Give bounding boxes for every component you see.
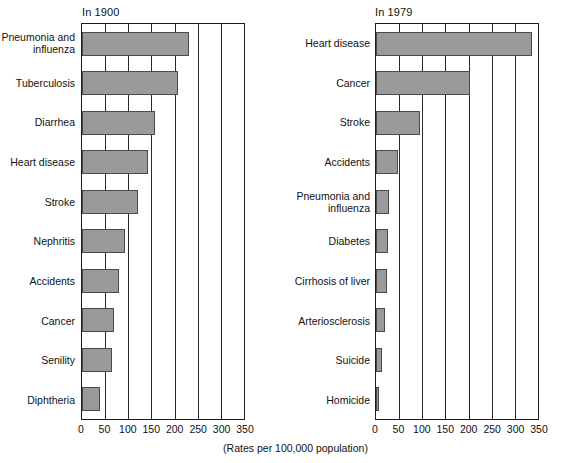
bar-row <box>82 64 244 104</box>
bar <box>376 387 379 411</box>
panel-1979-x-axis-ticks: 050100150200250300350 <box>375 423 539 439</box>
bar-row <box>376 222 538 262</box>
bar-row <box>376 340 538 380</box>
bar <box>376 190 389 214</box>
x-tick-label-50: 50 <box>393 423 405 435</box>
x-tick-label-200: 200 <box>460 423 478 435</box>
category-label: Homicide <box>286 380 370 420</box>
category-label: Pneumonia andinfluenza <box>0 23 75 63</box>
bar <box>82 348 112 372</box>
category-label: Tuberculosis <box>0 63 75 103</box>
bar-row <box>376 301 538 341</box>
category-label: Heart disease <box>286 23 370 63</box>
category-label: Heart disease <box>0 142 75 182</box>
category-label: Stroke <box>0 182 75 222</box>
panel-1900-x-axis-ticks: 050100150200250300350 <box>81 423 245 439</box>
category-label: Diarrhea <box>0 102 75 142</box>
bar-row <box>82 182 244 222</box>
footnote: (Rates per 100,000 population) <box>0 442 561 454</box>
x-tick-label-50: 50 <box>99 423 111 435</box>
panel-1979-category-labels: Heart diseaseCancerStrokeAccidentsPneumo… <box>286 23 370 420</box>
panel-1900-plot-area <box>81 23 245 420</box>
category-label: Cancer <box>286 63 370 103</box>
bar-row <box>82 143 244 183</box>
bar-row <box>82 222 244 262</box>
bar-row <box>82 380 244 420</box>
x-tick-label-100: 100 <box>119 423 137 435</box>
category-label: Arteriosclerosis <box>286 301 370 341</box>
bar-row <box>376 143 538 183</box>
x-tick-label-0: 0 <box>372 423 378 435</box>
x-tick-label-350: 350 <box>530 423 548 435</box>
bar <box>376 308 385 332</box>
category-label: Accidents <box>0 261 75 301</box>
x-tick-label-300: 300 <box>213 423 231 435</box>
panel-1900-title: In 1900 <box>82 6 119 18</box>
category-label: Suicide <box>286 341 370 381</box>
category-label: Senility <box>0 341 75 381</box>
panel-1979: In 1979 Heart diseaseCancerStrokeAcciden… <box>280 0 561 463</box>
bar <box>82 32 189 56</box>
bar-row <box>376 103 538 143</box>
bar <box>82 71 178 95</box>
bar-row <box>82 261 244 301</box>
panel-1979-plot-area <box>375 23 539 420</box>
bar <box>82 387 100 411</box>
x-tick-label-350: 350 <box>236 423 254 435</box>
bar-row <box>376 380 538 420</box>
category-label: Nephritis <box>0 221 75 261</box>
bar-row <box>376 24 538 64</box>
bar-row <box>82 301 244 341</box>
bar-row <box>82 340 244 380</box>
x-tick-label-150: 150 <box>437 423 455 435</box>
bar <box>82 150 148 174</box>
bar <box>376 111 420 135</box>
bar <box>376 71 470 95</box>
category-label: Accidents <box>286 142 370 182</box>
bar <box>82 269 119 293</box>
category-label: Diabetes <box>286 221 370 261</box>
bar-row <box>82 24 244 64</box>
category-label: Cirrhosis of liver <box>286 261 370 301</box>
bar <box>376 32 532 56</box>
x-tick-label-200: 200 <box>166 423 184 435</box>
bar <box>376 269 387 293</box>
x-tick-label-100: 100 <box>413 423 431 435</box>
bar-row <box>82 103 244 143</box>
category-label: Cancer <box>0 301 75 341</box>
bar <box>376 229 388 253</box>
x-tick-label-0: 0 <box>78 423 84 435</box>
bar <box>82 229 125 253</box>
category-label: Pneumonia andinfluenza <box>286 182 370 222</box>
bar <box>82 190 138 214</box>
panel-1900-bars <box>82 24 244 419</box>
panel-1979-title: In 1979 <box>375 6 412 18</box>
panel-1900-category-labels: Pneumonia andinfluenzaTuberculosisDiarrh… <box>0 23 75 420</box>
panel-1979-bars <box>376 24 538 419</box>
bar <box>82 308 114 332</box>
x-tick-label-150: 150 <box>143 423 161 435</box>
panel-1900: In 1900 Pneumonia andinfluenzaTuberculos… <box>0 0 281 463</box>
category-label: Stroke <box>286 102 370 142</box>
bar-row <box>376 182 538 222</box>
leading-causes-of-death-chart: In 1900 Pneumonia andinfluenzaTuberculos… <box>0 0 561 463</box>
x-tick-label-250: 250 <box>189 423 207 435</box>
category-label: Diphtheria <box>0 380 75 420</box>
bar-row <box>376 261 538 301</box>
x-tick-label-300: 300 <box>507 423 525 435</box>
bar <box>376 150 398 174</box>
bar-row <box>376 64 538 104</box>
bar <box>82 111 155 135</box>
x-tick-label-250: 250 <box>483 423 501 435</box>
footnote-text: (Rates per 100,000 population) <box>223 442 368 454</box>
bar <box>376 348 382 372</box>
